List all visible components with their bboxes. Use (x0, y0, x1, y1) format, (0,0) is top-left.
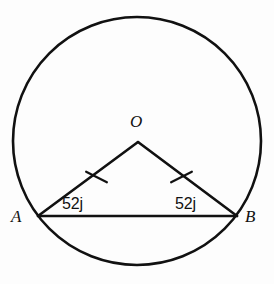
angle-label-at-b: 52ј (175, 196, 196, 212)
segment-radius-OA (38, 142, 138, 216)
circle-shape (13, 17, 261, 265)
angle-label-at-a: 52ј (62, 196, 83, 212)
vertex-label-b: B (245, 208, 255, 225)
figure-canvas (0, 0, 274, 284)
vertex-label-o: O (130, 113, 142, 130)
vertex-label-a: A (11, 208, 21, 225)
geometry-figure: A B O 52ј 52ј (0, 0, 274, 284)
